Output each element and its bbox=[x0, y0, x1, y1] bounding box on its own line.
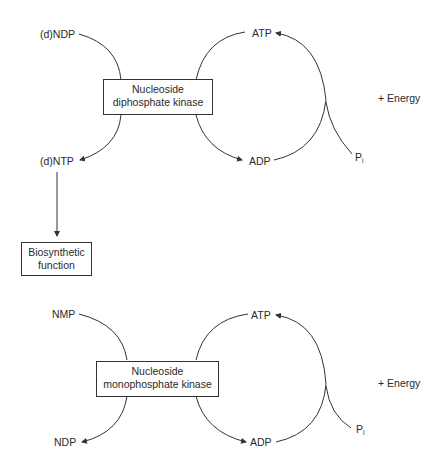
adp-label: ADP bbox=[250, 436, 272, 448]
atp-label: ATP bbox=[252, 27, 272, 39]
phosphate-label: Pi bbox=[355, 151, 364, 167]
energy-label: + Energy bbox=[378, 92, 420, 104]
adp-label: ADP bbox=[249, 155, 271, 167]
enzyme-box: Nucleoside diphosphate kinase bbox=[103, 79, 213, 115]
diagram-lines bbox=[0, 0, 443, 465]
enzyme-name-line1: Nucleoside bbox=[104, 83, 212, 96]
substrate-label: (d)NDP bbox=[40, 28, 75, 40]
enzyme-name-line2: monophosphate kinase bbox=[97, 378, 218, 391]
phosphate-label: Pi bbox=[356, 423, 365, 439]
enzyme-box: Nucleoside monophosphate kinase bbox=[96, 361, 219, 397]
enzyme-name-line2: diphosphate kinase bbox=[104, 96, 212, 109]
atp-label: ATP bbox=[251, 309, 271, 321]
biosynthetic-function-box: Biosynthetic function bbox=[21, 242, 92, 276]
energy-label: + Energy bbox=[378, 377, 420, 389]
product-label: (d)NTP bbox=[40, 155, 74, 167]
enzyme-name-line1: Nucleoside bbox=[97, 365, 218, 378]
substrate-label: NMP bbox=[52, 308, 75, 320]
output-line2: function bbox=[22, 259, 91, 272]
output-line1: Biosynthetic bbox=[22, 246, 91, 259]
product-label: NDP bbox=[54, 436, 76, 448]
